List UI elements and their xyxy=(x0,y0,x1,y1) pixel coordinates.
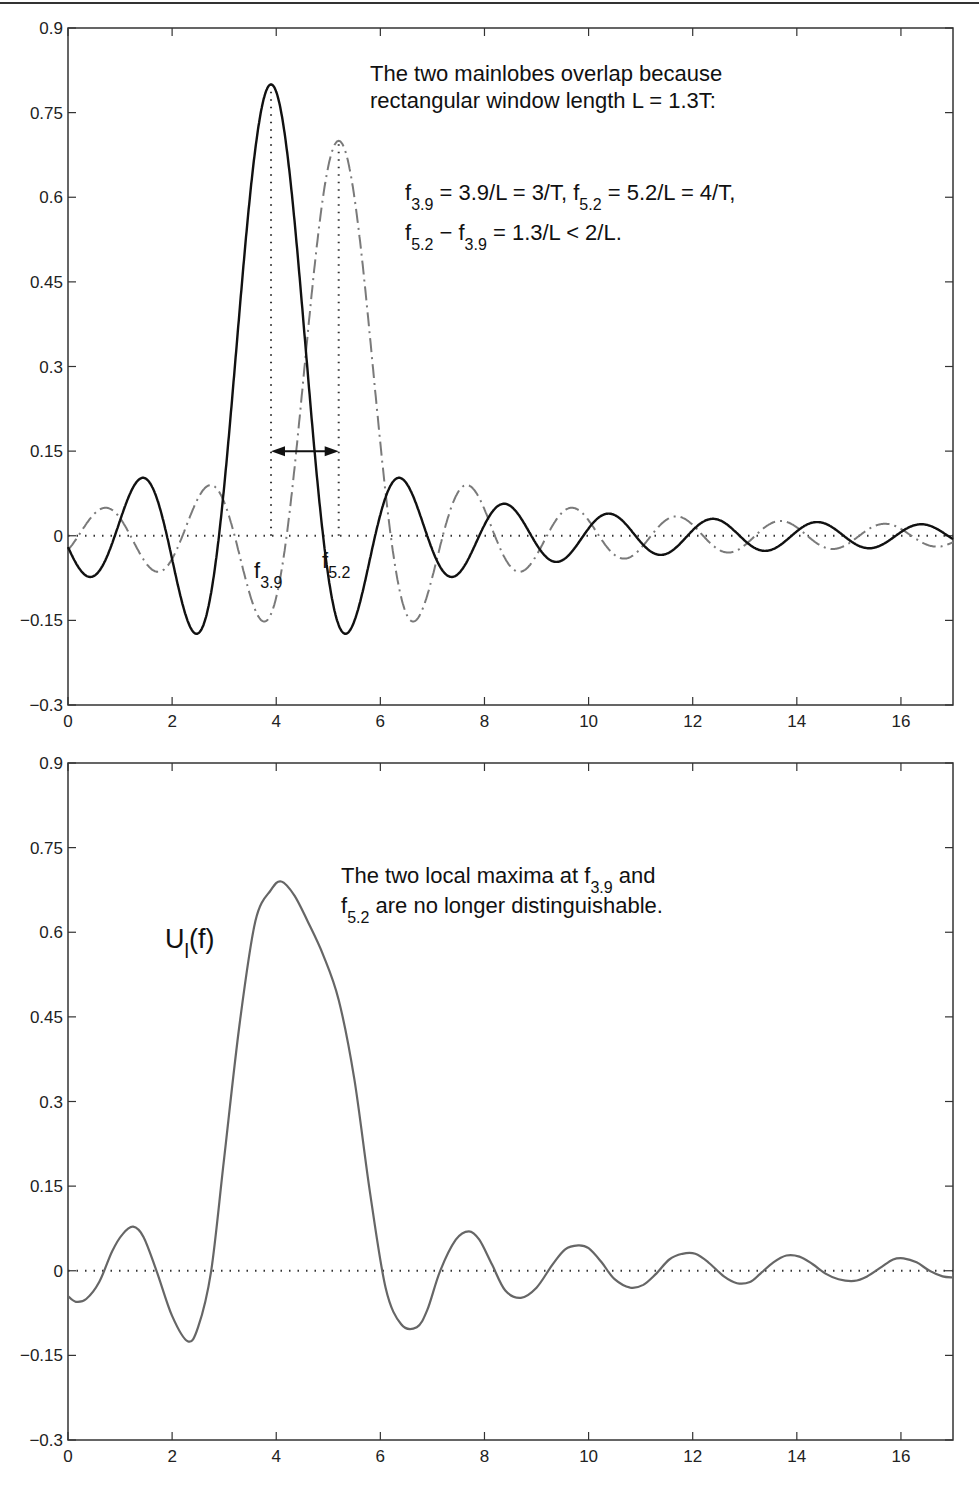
double-arrow xyxy=(271,446,339,456)
x-tick-label: 16 xyxy=(891,1447,910,1466)
x-tick-label: 8 xyxy=(480,1447,489,1466)
y-tick-label: 0.45 xyxy=(30,273,63,292)
x-tick-label: 2 xyxy=(167,1447,176,1466)
y-tick-label: 0.3 xyxy=(39,358,63,377)
x-tick-label: 6 xyxy=(376,712,385,731)
top-annotation-line1: The two mainlobes overlap because xyxy=(370,61,722,86)
y-tick-label: −0.15 xyxy=(20,1346,63,1365)
top-plot: 0246810121416−0.3−0.1500.150.30.450.60.7… xyxy=(20,19,953,731)
top-equation-1: f3.9 = 3.9/L = 3/T, f5.2 = 5.2/L = 4/T, xyxy=(405,180,735,213)
y-tick-label: 0.15 xyxy=(30,442,63,461)
x-tick-label: 14 xyxy=(787,1447,806,1466)
top-frequency-markers xyxy=(271,84,339,535)
x-tick-label: 16 xyxy=(891,712,910,731)
y-tick-label: 0.6 xyxy=(39,923,63,942)
label-f5.2: f5.2 xyxy=(322,548,350,581)
y-tick-label: 0.6 xyxy=(39,188,63,207)
y-tick-label: −0.3 xyxy=(29,696,63,715)
bottom-annotation-line2: f5.2 are no longer distinguishable. xyxy=(341,893,663,926)
x-tick-label: 6 xyxy=(376,1447,385,1466)
y-tick-label: −0.15 xyxy=(20,611,63,630)
ul-label: Ul(f) xyxy=(165,924,214,962)
x-tick-label: 8 xyxy=(480,712,489,731)
y-tick-label: 0.45 xyxy=(30,1008,63,1027)
x-tick-label: 0 xyxy=(63,712,72,731)
x-tick-label: 4 xyxy=(272,712,281,731)
top-annotation-line2: rectangular window length L = 1.3T: xyxy=(370,88,716,113)
y-tick-label: 0 xyxy=(54,1262,63,1281)
bottom-plot: 0246810121416−0.3−0.1500.150.30.450.60.7… xyxy=(20,754,953,1466)
y-tick-label: 0.15 xyxy=(30,1177,63,1196)
x-tick-label: 10 xyxy=(579,712,598,731)
x-tick-label: 12 xyxy=(683,1447,702,1466)
y-tick-label: 0.9 xyxy=(39,19,63,38)
figure: 0246810121416−0.3−0.1500.150.30.450.60.7… xyxy=(0,0,979,1500)
sinc-3.9-curve xyxy=(68,84,953,633)
y-tick-label: 0.75 xyxy=(30,104,63,123)
sinc-5.2-curve xyxy=(68,141,953,622)
bottom-axis-ticks: 0246810121416−0.3−0.1500.150.30.450.60.7… xyxy=(20,754,953,1466)
x-tick-label: 12 xyxy=(683,712,702,731)
label-f3.9: f3.9 xyxy=(254,558,282,591)
x-tick-label: 10 xyxy=(579,1447,598,1466)
bottom-annotation-line1: The two local maxima at f3.9 and xyxy=(341,863,656,896)
x-tick-label: 4 xyxy=(272,1447,281,1466)
top-equation-2: f5.2 − f3.9 = 1.3/L < 2/L. xyxy=(405,220,622,253)
y-tick-label: 0.75 xyxy=(30,839,63,858)
y-tick-label: 0 xyxy=(54,527,63,546)
x-tick-label: 2 xyxy=(167,712,176,731)
y-tick-label: 0.9 xyxy=(39,754,63,773)
y-tick-label: 0.3 xyxy=(39,1093,63,1112)
x-tick-label: 0 xyxy=(63,1447,72,1466)
y-tick-label: −0.3 xyxy=(29,1431,63,1450)
x-tick-label: 14 xyxy=(787,712,806,731)
top-axis-ticks: 0246810121416−0.3−0.1500.150.30.450.60.7… xyxy=(20,19,953,731)
top-plot-frame xyxy=(68,28,953,705)
